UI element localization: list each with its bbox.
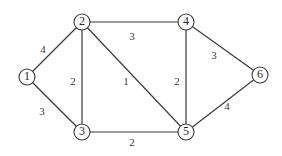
node-label: 4 [183,14,189,28]
node-2: 2 [74,14,90,30]
node-label: 5 [183,124,189,138]
edge-weight-4-5: 2 [174,75,180,87]
edge-weight-1-2: 4 [40,43,46,55]
node-label: 3 [79,124,85,138]
edge-weight-4-6: 3 [211,49,217,61]
node-4: 4 [178,14,194,30]
edge-weight-2-4: 3 [129,30,135,42]
node-6: 6 [252,67,268,83]
edge-5-6 [186,75,260,132]
edge-weight-2-5: 1 [123,75,129,87]
node-5: 5 [178,124,194,140]
node-label: 2 [79,14,85,28]
edge-1-2 [27,22,82,77]
weights-layer: 432312234 [39,30,230,148]
node-label: 6 [257,67,263,81]
node-3: 3 [74,124,90,140]
edge-weight-5-6: 4 [224,100,230,112]
edge-weight-3-5: 2 [129,136,135,148]
edges-layer [27,22,260,132]
edge-4-6 [186,22,260,75]
node-1: 1 [19,69,35,85]
edge-weight-2-3: 2 [70,75,76,87]
nodes-layer: 123456 [19,14,268,140]
edge-weight-1-3: 3 [39,105,45,117]
weighted-graph: 432312234 123456 [0,0,282,156]
node-label: 1 [24,69,30,83]
